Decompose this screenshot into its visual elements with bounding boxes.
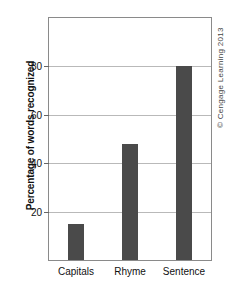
x-tick-label: Sentence [163,266,205,277]
bar-rhyme [122,144,138,260]
x-tick-label: Capitals [58,266,94,277]
y-tick-mark [44,66,49,67]
y-tick-label: 20 [31,206,42,217]
y-tick-label: 40 [31,158,42,169]
y-tick-label: 60 [31,109,42,120]
y-tick-mark [44,115,49,116]
plot-area: 20406080CapitalsRhymeSentence [48,17,212,261]
copyright-credit: © Cengage Learning 2013 [216,0,225,128]
y-tick-mark [44,163,49,164]
y-tick-label: 80 [31,61,42,72]
bar-chart-figure: Percentage of words recognized 20406080C… [0,0,245,297]
y-tick-mark [44,212,49,213]
bar-capitals [68,224,84,260]
x-tick-label: Rhyme [114,266,146,277]
bar-sentence [176,66,192,260]
